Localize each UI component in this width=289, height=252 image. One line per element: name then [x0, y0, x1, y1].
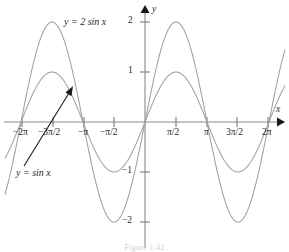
x-tick-label-neg-pi-2: −π/2 — [100, 128, 118, 138]
y-tick-label-neg-2: −2 — [122, 216, 132, 226]
figure-sine-graphs: x y −2π −3π/2 −π −π/2 π/2 π 3π/2 2π 2 1 … — [0, 0, 289, 252]
y-tick-label-neg-1: −1 — [122, 166, 132, 176]
y-tick-label-1: 1 — [128, 66, 133, 76]
x-axis-label: x — [276, 105, 280, 115]
curve-label-sinx: y = sin x — [16, 168, 51, 178]
x-tick-label-2pi: 2π — [262, 128, 272, 138]
x-axis-arrowhead — [277, 118, 285, 127]
y-tick-label-2: 2 — [128, 16, 133, 26]
x-tick-label-neg-2pi: −2π — [13, 128, 28, 138]
curve-label-2sinx: y = 2 sin x — [64, 17, 106, 27]
y-axis-label: y — [152, 5, 156, 15]
x-tick-label-pi: π — [204, 128, 209, 138]
x-tick-label-neg-pi: −π — [78, 128, 88, 138]
plot-canvas — [0, 0, 289, 252]
figure-caption: Figure 1.42 — [0, 243, 289, 252]
x-tick-label-neg-3pi-2: −3π/2 — [38, 128, 60, 138]
x-tick-label-pi-2: π/2 — [167, 128, 179, 138]
y-axis-arrowhead — [141, 5, 150, 13]
x-tick-label-3pi-2: 3π/2 — [226, 128, 243, 138]
